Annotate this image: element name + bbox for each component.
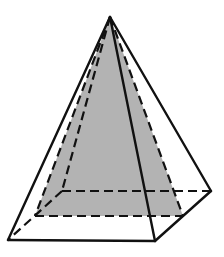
- pyramid-diagram: [0, 0, 224, 257]
- visible-edge: [8, 240, 155, 241]
